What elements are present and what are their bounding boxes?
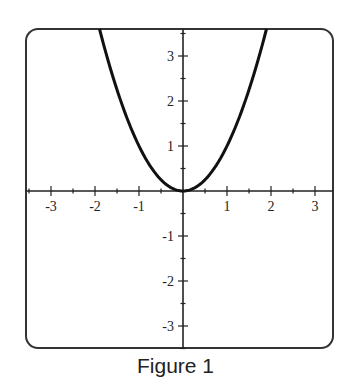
figure-plot: -3-2-1123321-1-2-3	[0, 0, 351, 386]
x-tick-label: -3	[45, 199, 57, 214]
y-tick-label: -1	[162, 229, 174, 244]
y-tick-label: 2	[167, 94, 174, 109]
x-tick-label: 2	[268, 199, 275, 214]
x-tick-label: 1	[224, 199, 231, 214]
y-tick-label: -2	[162, 274, 174, 289]
axes	[26, 29, 333, 348]
y-tick-label: 1	[167, 139, 174, 154]
y-tick-label: -3	[162, 319, 174, 334]
figure-caption: Figure 1	[0, 354, 351, 378]
x-tick-label: -2	[89, 199, 101, 214]
plot-frame	[26, 29, 333, 348]
y-tick-label: 3	[167, 49, 174, 64]
x-tick-label: -1	[133, 199, 145, 214]
x-tick-label: 3	[312, 199, 319, 214]
